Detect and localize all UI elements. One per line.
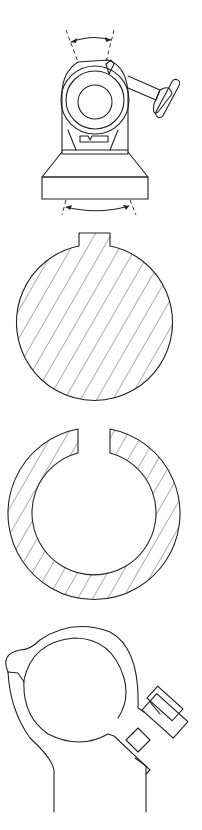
top-rotation-arrow-icon: [66, 30, 114, 62]
mount-assembly-drawing: [0, 0, 202, 230]
split-ring-section-drawing: [0, 420, 202, 620]
knob-arm: [128, 76, 181, 119]
bottom-rotation-arrow-icon: [62, 200, 136, 215]
mount-base: [42, 150, 148, 199]
mount-body: [61, 60, 129, 150]
hatched-circle-with-key: [16, 233, 172, 400]
figure-canvas: [0, 0, 202, 830]
clamp-collar-drawing: [0, 620, 202, 830]
solid-shaft-section-drawing: [0, 230, 202, 420]
hatched-split-ring: [8, 429, 180, 599]
clamp-collar: [6, 627, 188, 812]
